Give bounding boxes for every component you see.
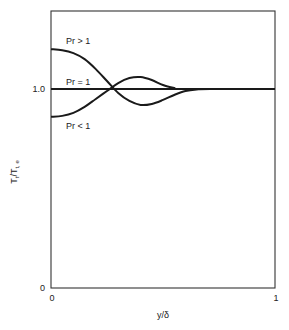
y-label-den-sub: t, e	[14, 160, 20, 169]
label-pr-equal-1: Pr = 1	[66, 77, 90, 87]
y-tick-label: 0	[40, 283, 45, 293]
x-tick-label: 1	[273, 293, 278, 303]
svg-text:Tt/Tt, e: Tt/Tt, e	[9, 160, 20, 184]
y-tick-label: 1.0	[32, 84, 45, 94]
label-pr-greater-than-1: Pr > 1	[66, 36, 90, 46]
y-axis-label: Tt/Tt, e	[9, 160, 20, 184]
series-labels: Pr > 1Pr = 1Pr < 1	[66, 36, 90, 131]
label-pr-less-than-1: Pr < 1	[66, 121, 90, 131]
chart: 01.001 Pr > 1Pr = 1Pr < 1 y/δ Tt/Tt, e	[0, 0, 289, 330]
x-tick-label: 0	[49, 293, 54, 303]
tick-labels: 01.001	[32, 84, 278, 303]
plot-frame	[51, 11, 275, 288]
x-axis-label: y/δ	[157, 310, 169, 320]
